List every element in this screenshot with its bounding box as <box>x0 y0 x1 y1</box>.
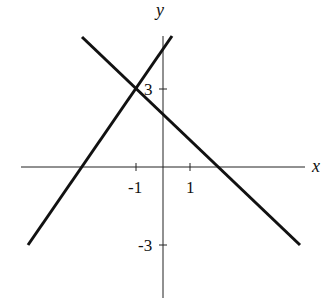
line-falling <box>82 37 300 245</box>
x-axis-label: x <box>311 156 320 176</box>
tick-label-x-neg1: -1 <box>128 178 142 197</box>
tick-label-y-neg3: -3 <box>138 236 152 255</box>
y-axis-label: y <box>154 0 164 20</box>
tick-label-y-3: 3 <box>144 80 153 99</box>
line-rising <box>28 36 172 245</box>
coordinate-plane: y x -1 1 3 -3 <box>0 0 336 298</box>
tick-label-x-1: 1 <box>186 178 195 197</box>
